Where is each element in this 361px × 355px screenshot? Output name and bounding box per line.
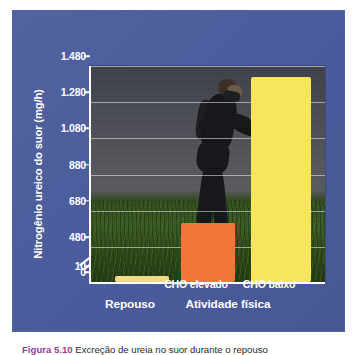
y-axis-tick-label: 1.480 (48, 50, 86, 62)
y-axis-title: Nitrogênio ureico do suor (mg/h) (28, 64, 48, 284)
figure-root: Nitrogênio ureico do suor (mg/h) 1.4801.… (0, 0, 361, 355)
figure-caption-text: Excreção de ureia no suor durante o repo… (75, 344, 268, 355)
y-axis-title-text: Nitrogênio ureico do suor (mg/h) (32, 89, 44, 258)
y-axis-tick-label: 0 (48, 266, 86, 278)
y-axis-tick-label: 880 (48, 159, 86, 171)
y-axis-tick-mark (84, 128, 90, 130)
figure-caption-label: Figura 5.10 (22, 344, 73, 355)
figure-caption: Figura 5.10 Excreção de ureia no suor du… (22, 344, 342, 355)
y-axis-line (89, 66, 91, 283)
y-axis-tick-label: 680 (48, 195, 86, 207)
y-axis-tick-label: 480 (48, 231, 86, 243)
bar-cho-baixo (251, 77, 311, 282)
gridline (90, 66, 325, 67)
y-axis-tick-mark (84, 271, 90, 273)
y-axis-tick-label: 1.080 (48, 122, 86, 134)
x-axis-label-cho-elevado: CHO elevado (164, 278, 228, 290)
y-axis-tick-mark (84, 200, 90, 202)
x-axis-group-label-atividade-fisica: Atividade física (186, 297, 271, 311)
y-axis-tick-mark (84, 236, 90, 238)
bar-fill (181, 223, 235, 282)
y-axis-tick-labels: 1.4801.2801.080880680480100 (48, 10, 86, 332)
y-axis-tick-mark (84, 55, 90, 57)
x-axis-label-cho-baixo: CHO baixo (243, 278, 295, 290)
bar-fill (251, 77, 311, 282)
y-axis-tick-label: 1.280 (48, 86, 86, 98)
y-axis-tick-mark (84, 164, 90, 166)
x-axis-group-label-repouso: Repouso (105, 297, 155, 311)
plot-area (90, 66, 325, 282)
bar-cho-elevado (181, 223, 235, 282)
y-axis-tick-mark (84, 265, 90, 267)
chart-panel: Nitrogênio ureico do suor (mg/h) 1.4801.… (12, 10, 345, 332)
y-axis-tick-mark (84, 91, 90, 93)
